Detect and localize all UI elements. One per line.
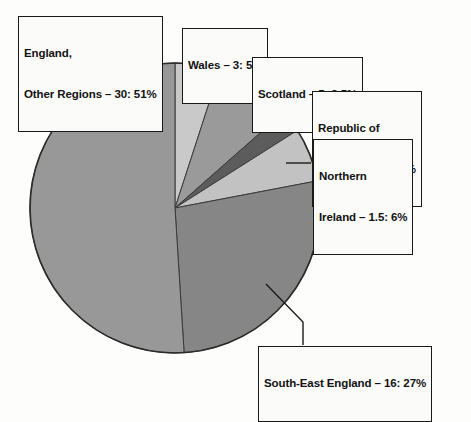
callout-england-line1: England, (24, 47, 157, 61)
callout-ni-line2: Ireland – 1.5: 6% (319, 211, 407, 225)
pie-slice-south-east-england[interactable] (175, 181, 320, 353)
callout-southeast-line1: South-East England – 16: 27% (264, 377, 426, 391)
callout-northern-ireland[interactable]: Northern Ireland – 1.5: 6% (313, 139, 413, 255)
callout-ni-line1: Northern (319, 170, 407, 184)
callout-england-other-regions[interactable]: England, Other Regions – 30: 51% (18, 16, 163, 132)
callout-south-east-england[interactable]: South-East England – 16: 27% (258, 346, 432, 422)
callout-england-line2: Other Regions – 30: 51% (24, 88, 157, 102)
callout-roi-line1: Republic of (318, 122, 416, 136)
